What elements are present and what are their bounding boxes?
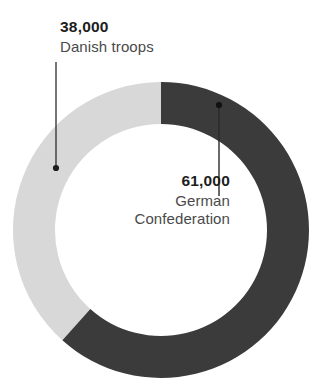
annotation-german-confederation-label-line2: Confederation — [134, 210, 230, 228]
annotation-german-confederation-value: 61,000 — [134, 172, 230, 190]
annotation-german-confederation: 61,000 German Confederation — [134, 172, 230, 228]
annotation-danish-troops: 38,000 Danish troops — [60, 18, 154, 56]
annotation-danish-troops-label: Danish troops — [60, 38, 154, 56]
leader-dot-danish-troops — [53, 165, 59, 171]
leader-dot-german-confederation — [216, 102, 222, 108]
annotation-german-confederation-label-line1: German — [134, 192, 230, 210]
donut-chart: 38,000 Danish troops 61,000 German Confe… — [0, 0, 322, 388]
annotation-danish-troops-value: 38,000 — [60, 18, 154, 36]
